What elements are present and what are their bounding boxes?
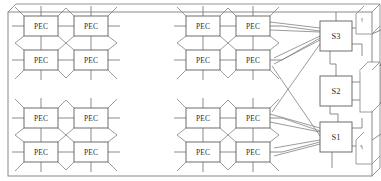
pec-node[interactable]: PEC: [74, 142, 108, 162]
switch-s2[interactable]: S2: [320, 76, 352, 106]
switch-s1-label: S1: [332, 133, 341, 142]
pec-node-label: PEC: [196, 114, 210, 123]
pec-node-label: PEC: [246, 56, 260, 65]
pec-node[interactable]: PEC: [236, 50, 270, 70]
pec-node[interactable]: PEC: [236, 16, 270, 36]
pec-node-label: PEC: [34, 22, 48, 31]
pec-node-label: PEC: [34, 56, 48, 65]
switch-s2-label: S2: [332, 87, 341, 96]
pec-node[interactable]: PEC: [74, 50, 108, 70]
pec-node-label: PEC: [84, 114, 98, 123]
pec-node-label: PEC: [196, 148, 210, 157]
pec-node-label: PEC: [246, 22, 260, 31]
pec-node[interactable]: PEC: [236, 108, 270, 128]
pec-node-label: PEC: [84, 148, 98, 157]
external-port-bar-s2: [360, 62, 381, 112]
pec-node[interactable]: PEC: [24, 50, 58, 70]
architecture-diagram: PEC PEC PEC PEC PEC PEC PEC P: [0, 0, 381, 181]
pec-node-label: PEC: [34, 148, 48, 157]
pec-node[interactable]: PEC: [24, 142, 58, 162]
switch-s3[interactable]: S3: [320, 21, 352, 51]
pec-node[interactable]: PEC: [236, 142, 270, 162]
pec-node-label: PEC: [196, 22, 210, 31]
switch-s1[interactable]: S1: [320, 122, 352, 152]
pec-node-label: PEC: [246, 114, 260, 123]
diagram-canvas: PEC PEC PEC PEC PEC PEC PEC P: [0, 0, 381, 181]
pec-node-label: PEC: [196, 56, 210, 65]
pec-node[interactable]: PEC: [74, 108, 108, 128]
pec-node-label: PEC: [246, 148, 260, 157]
pec-node-label: PEC: [84, 22, 98, 31]
pec-node[interactable]: PEC: [24, 16, 58, 36]
pec-node[interactable]: PEC: [186, 16, 220, 36]
pec-node-label: PEC: [84, 56, 98, 65]
pec-node[interactable]: PEC: [186, 142, 220, 162]
pec-node-label: PEC: [34, 114, 48, 123]
pec-node[interactable]: PEC: [186, 108, 220, 128]
switch-s3-label: S3: [332, 32, 341, 41]
pec-node[interactable]: PEC: [24, 108, 58, 128]
pec-node[interactable]: PEC: [74, 16, 108, 36]
pec-node[interactable]: PEC: [186, 50, 220, 70]
